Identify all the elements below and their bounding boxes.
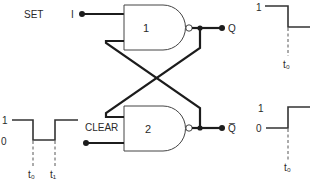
q-bar-wave-t0-label: t₀ xyxy=(284,162,291,173)
clear-wave-t1-label: t₁ xyxy=(50,169,57,180)
q-bar-waveform: 1 0 t₀ xyxy=(256,103,310,173)
nand-gate-1: 1 xyxy=(124,5,192,50)
q-wave-trace xyxy=(265,6,310,27)
gate-2-body xyxy=(124,106,186,151)
q-label: Q xyxy=(228,23,236,34)
clear-waveform: 1 0 t₀ t₁ xyxy=(1,115,78,180)
gate-2-inversion-bubble xyxy=(186,125,192,131)
nand-gate-2: 2 xyxy=(124,106,192,151)
q-bar-label: Q̅ xyxy=(228,123,236,134)
clear-wave-level-1: 1 xyxy=(2,115,8,126)
q-terminal-dot xyxy=(219,25,225,31)
q-wave-t0-label: t₀ xyxy=(283,59,290,70)
gate-1-inversion-bubble xyxy=(186,25,192,31)
q-bar-wave-trace xyxy=(266,107,310,128)
q-bar-wave-level-1: 1 xyxy=(258,103,264,114)
q-wave-level-1: 1 xyxy=(256,2,262,13)
q-output: Q xyxy=(192,23,236,34)
clear-wave-level-0: 0 xyxy=(1,136,7,147)
clear-label: CLEAR xyxy=(85,122,118,133)
q-bar-wave-level-0: 0 xyxy=(256,123,262,134)
clear-wave-trace xyxy=(12,120,78,140)
clear-wave-t0-label: t₀ xyxy=(28,169,35,180)
set-level-marker: I xyxy=(71,9,74,20)
gate-2-label: 2 xyxy=(145,123,151,135)
clear-input: CLEAR xyxy=(83,122,124,146)
set-label: SET xyxy=(24,9,43,20)
gate-1-body xyxy=(124,5,186,50)
set-input: SET I xyxy=(24,9,124,20)
gate-1-label: 1 xyxy=(143,22,149,34)
q-waveform: 1 t₀ xyxy=(256,2,310,70)
q-bar-output: Q̅ xyxy=(192,123,236,134)
q-bar-terminal-dot xyxy=(219,125,225,131)
sr-latch-diagram: SET I 1 2 Q Q̅ CLEAR xyxy=(0,0,310,189)
